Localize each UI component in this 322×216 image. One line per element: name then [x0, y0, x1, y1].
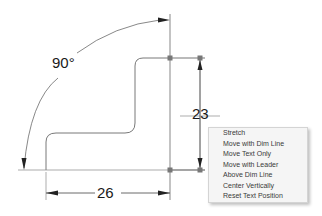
angle-dimension-text[interactable]: 90° [52, 55, 75, 70]
menu-item-above-dim-line[interactable]: Above Dim Line [223, 171, 272, 178]
horizontal-dimension-text[interactable]: 26 [97, 185, 114, 200]
grip-handle[interactable] [198, 168, 203, 173]
menu-item-move-text-only[interactable]: Move Text Only [223, 150, 271, 157]
grip-handle[interactable] [168, 56, 173, 61]
arrow-left-icon [46, 191, 58, 196]
arrow-down-icon [22, 158, 27, 170]
arrow-up-icon [198, 60, 203, 70]
menu-item-reset-text-position[interactable]: Reset Text Position [223, 192, 283, 199]
grip-handle[interactable] [168, 168, 173, 173]
menu-item-move-with-leader[interactable]: Move with Leader [223, 161, 278, 168]
arrow-right-icon [158, 191, 170, 196]
grip-handle[interactable] [198, 56, 203, 61]
context-menu: Stretch Move with Dim Line Move Text Onl… [208, 127, 308, 203]
vertical-dimension-text[interactable]: 23 [192, 106, 209, 121]
angular-dimension-arc[interactable] [24, 78, 58, 168]
menu-item-move-with-dim-line[interactable]: Move with Dim Line [223, 140, 284, 147]
arrow-down-icon [198, 158, 203, 168]
part-profile[interactable] [46, 58, 170, 170]
menu-item-stretch[interactable]: Stretch [223, 129, 245, 136]
arrow-right-icon [158, 18, 170, 23]
menu-item-center-vertically[interactable]: Center Vertically [223, 182, 274, 189]
